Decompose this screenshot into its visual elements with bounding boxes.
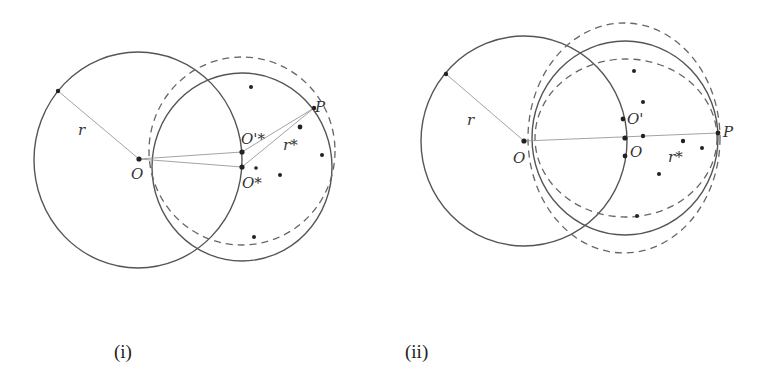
line-O-to-P	[524, 133, 718, 141]
data-point	[278, 173, 282, 177]
panel-i: r O O'* O* P r* (i)	[34, 52, 335, 363]
data-point	[641, 134, 645, 138]
data-point	[635, 214, 639, 218]
label-O-prime-star: O'*	[241, 130, 265, 148]
label-r: r	[78, 121, 86, 139]
point-O-lower	[623, 154, 628, 159]
label-P: P	[314, 98, 326, 116]
data-point	[641, 100, 645, 104]
data-point	[632, 69, 636, 73]
point-O	[136, 156, 141, 161]
line-O-to-O-star	[139, 159, 242, 167]
radius-point	[56, 89, 60, 93]
data-point	[252, 235, 256, 239]
label-r: r	[467, 111, 475, 129]
label-O-prime: O'	[627, 110, 643, 128]
label-O: O	[513, 149, 525, 167]
label-O-lower: O	[630, 143, 642, 161]
data-point	[320, 153, 324, 157]
data-point	[700, 146, 704, 150]
data-point	[298, 125, 303, 130]
data-point	[657, 172, 661, 176]
data-point	[681, 139, 685, 143]
line-O-to-O-prime-star	[139, 152, 242, 159]
caption-ii: (ii)	[405, 341, 428, 363]
point-O	[521, 138, 526, 143]
caption-i: (i)	[114, 341, 132, 363]
radius-point	[444, 72, 448, 76]
label-r-star: r*	[668, 148, 683, 166]
label-O: O	[131, 165, 143, 183]
panel-ii: r O O' O P r* (ii)	[405, 23, 734, 363]
point-P	[716, 131, 721, 136]
label-r-star: r*	[283, 136, 298, 154]
label-O-star: O*	[242, 174, 262, 192]
point-O-star	[239, 164, 244, 169]
circle-diagram: r O O'* O* P r* (i) r O O' O P r* (ii)	[0, 0, 766, 375]
radius-line-r	[446, 74, 524, 141]
point-center	[622, 135, 627, 140]
radius-line-r	[58, 91, 139, 159]
data-point	[249, 85, 253, 89]
point-O-prime-star	[239, 149, 244, 154]
point-O-prime	[621, 117, 626, 122]
data-point	[254, 166, 258, 170]
label-P: P	[722, 123, 734, 141]
